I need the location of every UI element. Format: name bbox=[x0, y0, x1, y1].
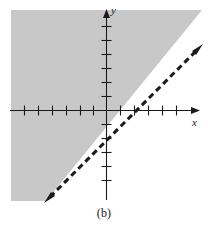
x-axis-arrow-icon bbox=[191, 107, 200, 114]
figure-caption: (b) bbox=[0, 206, 208, 221]
coordinate-plane-graph bbox=[0, 0, 208, 228]
y-axis-label: y bbox=[111, 5, 116, 16]
x-axis-label: x bbox=[192, 117, 197, 128]
figure-panel: y x (b) bbox=[0, 0, 208, 228]
